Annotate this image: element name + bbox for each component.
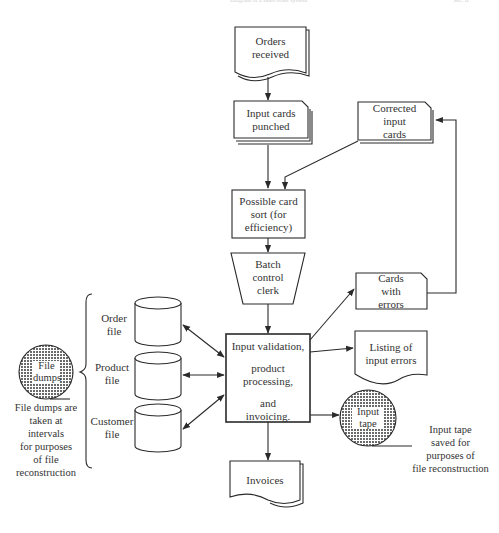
input-validation-line-3: and invoicing. [226, 397, 310, 423]
order-file-shape [135, 297, 181, 346]
product-file-shape [135, 352, 181, 400]
input-validation-line-2: product processing, [226, 362, 310, 388]
input-tape-note: Input tape saved for purposes of file re… [402, 423, 499, 475]
file-dumps-note: File dumps are taken at intervals for pu… [0, 401, 92, 479]
batch-clerk-label: Batch control clerk [243, 258, 293, 297]
customer-file-shape [135, 404, 181, 452]
input-cards-punched-label: Input cards punched [234, 107, 308, 133]
cards-with-errors-label: Cards with errors [356, 272, 426, 311]
invoices-label: Invoices [230, 474, 300, 487]
listing-errors-label: Listing of input errors [355, 341, 427, 367]
card-sort-label: Possible card sort (for efficiency) [232, 195, 305, 234]
orders-received-label: Orders received [235, 35, 306, 61]
order-file-label: Order file [96, 312, 132, 338]
product-file-label: Product file [88, 361, 136, 387]
corrected-input-cards-label: Corrected input cards [358, 102, 431, 141]
customer-file-label: Customer file [86, 415, 138, 441]
input-validation-line-1: Input validation, [226, 340, 310, 353]
input-tape-label: Input tape [352, 406, 384, 430]
input-validation-label: Input validation, product processing, an… [226, 340, 310, 423]
file-dumps-label: File dumps [33, 360, 60, 384]
